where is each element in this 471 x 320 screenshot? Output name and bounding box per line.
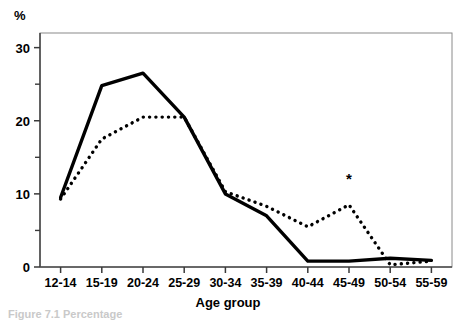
figure-caption-partial: Figure 7.1 Percentage (8, 308, 122, 320)
x-tick-label: 45-49 (333, 276, 365, 290)
x-tick-label: 15-19 (86, 276, 118, 290)
x-tick-label: 50-54 (374, 276, 406, 290)
series-line-dotted-line (61, 117, 432, 265)
y-axis-unit-label: % (14, 8, 26, 23)
x-tick-label: 55-59 (415, 276, 447, 290)
line-chart: 0102030%12-1415-1920-2425-2930-3435-3940… (0, 0, 471, 320)
x-tick-label: 30-34 (209, 276, 241, 290)
annotation-asterisk: * (346, 170, 352, 187)
x-axis-title: Age group (196, 295, 261, 310)
figure-container: 0102030%12-1415-1920-2425-2930-3435-3940… (0, 0, 471, 320)
y-tick-label: 0 (23, 260, 30, 275)
x-tick-label: 25-29 (168, 276, 200, 290)
x-tick-label: 35-39 (251, 276, 283, 290)
series-line-solid-line (61, 73, 432, 261)
x-tick-label: 40-44 (292, 276, 324, 290)
plot-frame (40, 33, 452, 267)
y-tick-label: 30 (16, 41, 30, 56)
x-tick-label: 20-24 (127, 276, 159, 290)
y-tick-label: 10 (16, 187, 30, 202)
x-tick-label: 12-14 (45, 276, 77, 290)
y-tick-label: 20 (16, 114, 30, 129)
